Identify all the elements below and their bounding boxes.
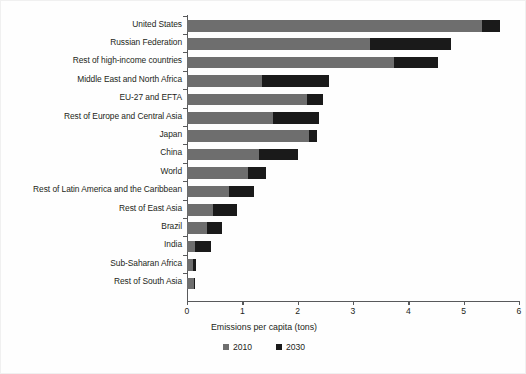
stacked-bar[interactable] [187,75,329,87]
plot-area [187,15,519,301]
y-axis-category-labels: United StatesRussian FederationRest of h… [1,15,182,301]
y-axis-label: Rest of Europe and Central Asia [1,111,182,121]
x-axis-tick-labels: 0123456 [187,306,519,318]
y-axis-label: Rest of East Asia [1,203,182,213]
legend-item-2010: 2010 [223,342,252,352]
bar-segment-2030 [259,149,298,161]
bar-segment-2010 [187,149,259,161]
legend-label-2030: 2030 [286,342,305,352]
bar-segment-2030 [273,112,319,124]
bar-row [187,238,519,256]
x-axis-tick [408,301,409,305]
x-axis-tick [298,301,299,305]
bar-segment-2010 [187,278,194,290]
bar-row [187,54,519,72]
stacked-bar[interactable] [187,259,196,271]
y-axis-label: Rest of Latin America and the Caribbean [1,184,182,194]
x-axis-title: Emissions per capita (tons) [1,322,526,332]
bar-segment-2030 [370,38,451,50]
bar-segment-2030 [394,57,438,69]
legend-item-2030: 2030 [276,342,305,352]
stacked-bar[interactable] [187,241,211,253]
legend-swatch-2030-icon [276,344,282,350]
stacked-bar[interactable] [187,278,195,290]
bar-segment-2010 [187,75,262,87]
bar-row [187,146,519,164]
y-axis-label: Sub-Saharan Africa [1,258,182,268]
chart-legend: 2010 2030 [1,342,526,352]
stacked-bar[interactable] [187,204,237,216]
stacked-bar[interactable] [187,57,438,69]
y-axis-label: Middle East and North Africa [1,74,182,84]
bar-segment-2010 [187,57,394,69]
stacked-bar[interactable] [187,186,254,198]
bar-segment-2010 [187,186,229,198]
y-axis-label: Rest of South Asia [1,276,182,286]
bar-segment-2030 [213,204,237,216]
bar-rows [187,15,519,301]
bar-segment-2010 [187,222,207,234]
bar-segment-2030 [229,186,254,198]
bar-segment-2010 [187,112,273,124]
y-axis-label: India [1,239,182,249]
x-axis-tick-label: 6 [517,306,522,317]
x-axis-tick-label: 3 [351,306,356,317]
stacked-bar[interactable] [187,20,500,32]
bar-row [187,91,519,109]
bar-segment-2030 [262,75,329,87]
y-axis-label: Japan [1,129,182,139]
x-axis-tick-label: 5 [461,306,466,317]
x-axis-tick-label: 2 [295,306,300,317]
bar-segment-2030 [307,94,323,106]
x-axis-tick-label: 4 [406,306,411,317]
legend-swatch-2010-icon [223,344,229,350]
stacked-bar[interactable] [187,94,323,106]
emissions-per-capita-chart: United StatesRussian FederationRest of h… [0,0,526,374]
bar-row [187,127,519,145]
bar-segment-2010 [187,38,370,50]
y-axis-label: China [1,147,182,157]
stacked-bar[interactable] [187,167,266,179]
y-axis-label: EU-27 and EFTA [1,92,182,102]
stacked-bar[interactable] [187,149,298,161]
x-axis-line [187,301,519,302]
bar-segment-2030 [194,278,195,290]
bar-row [187,109,519,127]
y-axis-label: Russian Federation [1,37,182,47]
bar-segment-2010 [187,167,248,179]
bar-segment-2030 [248,167,266,179]
stacked-bar[interactable] [187,38,451,50]
bar-segment-2030 [482,20,500,32]
x-axis-tick-label: 0 [185,306,190,317]
bar-row [187,219,519,237]
x-axis-tick-label: 1 [240,306,245,317]
bar-row [187,183,519,201]
y-axis-label: World [1,166,182,176]
x-axis-tick [187,301,188,305]
bar-row [187,72,519,90]
bar-segment-2030 [207,222,222,234]
stacked-bar[interactable] [187,112,319,124]
x-axis-tick [353,301,354,305]
y-axis-label: Rest of high-income countries [1,55,182,65]
bar-segment-2030 [195,241,210,253]
bar-segment-2010 [187,204,213,216]
bar-segment-2010 [187,94,307,106]
legend-label-2010: 2010 [233,342,252,352]
bar-row [187,164,519,182]
bar-row [187,275,519,293]
x-axis-tick [519,301,520,305]
bar-row [187,35,519,53]
bar-row [187,256,519,274]
bar-row [187,201,519,219]
bar-segment-2030 [193,259,196,271]
bar-segment-2030 [309,130,317,142]
bar-segment-2010 [187,130,309,142]
y-axis-label: United States [1,19,182,29]
x-axis-tick [242,301,243,305]
x-axis-tick [464,301,465,305]
stacked-bar[interactable] [187,222,222,234]
stacked-bar[interactable] [187,130,317,142]
bar-segment-2010 [187,241,195,253]
bar-row [187,17,519,35]
